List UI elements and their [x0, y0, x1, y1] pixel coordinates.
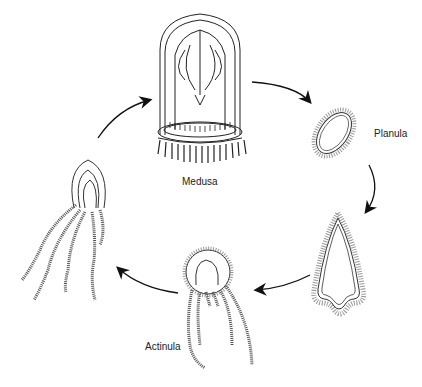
medusa-label: Medusa [182, 176, 218, 187]
arrow-polyp-to-medusa [98, 100, 150, 138]
polyp-illustration [22, 160, 105, 300]
arrow-medusa-to-planula [252, 82, 310, 102]
arrow-larva-to-actinula [256, 275, 310, 290]
medusa-illustration [158, 14, 246, 163]
planula-label: Planula [374, 128, 407, 139]
arrow-planula-to-larva [366, 165, 375, 212]
arrow-actinula-to-polyp [118, 268, 178, 293]
actinula-illustration [184, 248, 252, 368]
actinula-label: Actinula [145, 341, 181, 352]
planula-illustration [305, 102, 363, 164]
life-cycle-diagram [0, 0, 422, 387]
settled-larva-illustration [314, 213, 364, 314]
